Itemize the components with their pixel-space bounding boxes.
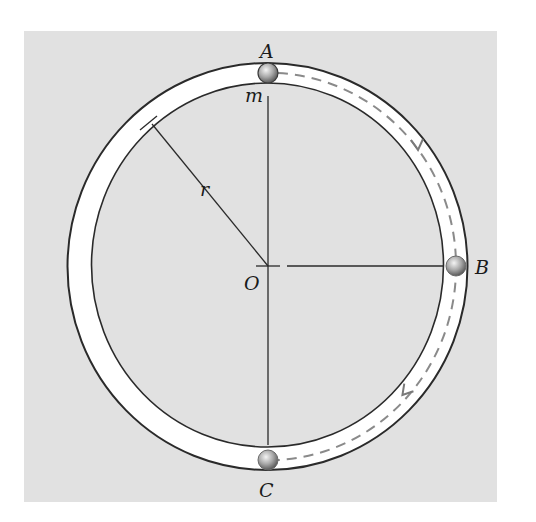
- ball-a: [258, 63, 278, 83]
- ball-b: [446, 256, 466, 276]
- label-m: m: [245, 84, 263, 106]
- label-o: O: [244, 272, 260, 294]
- label-c: C: [259, 479, 274, 501]
- circular-tube-diagram: A B C O r m: [0, 0, 536, 522]
- ball-c: [258, 450, 278, 470]
- label-b: B: [474, 256, 489, 278]
- label-a: A: [258, 40, 274, 62]
